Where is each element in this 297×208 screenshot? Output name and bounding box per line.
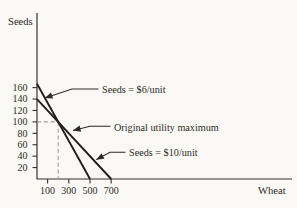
annotation-label: Original utility maximum [114, 122, 219, 133]
y-tick-label: 120 [13, 105, 28, 116]
x-tick-label: 100 [40, 185, 55, 196]
y-axis-ticks: 20406080100120140160 [13, 82, 38, 173]
figure: Seeds Wheat 20406080100120140160 1003005… [0, 0, 297, 208]
y-tick-label: 20 [18, 162, 28, 173]
x-tick-label: 500 [83, 185, 98, 196]
x-tick-label: 300 [61, 185, 76, 196]
y-axis-title: Seeds [8, 16, 33, 27]
annotation-label: Seeds = $6/unit [102, 84, 166, 95]
y-tick-label: 40 [18, 150, 28, 161]
annotations: Seeds = $6/unitOriginal utility maximumS… [45, 84, 219, 160]
annotation-arrow [73, 126, 110, 130]
budget-line [37, 99, 111, 179]
budget-line-chart: Seeds Wheat 20406080100120140160 1003005… [0, 0, 297, 208]
x-axis-title: Wheat [258, 185, 286, 196]
budget-lines [37, 84, 111, 179]
annotation-arrow [45, 89, 99, 98]
annotation-arrow [96, 152, 125, 159]
x-axis-ticks: 100300500700 [40, 179, 119, 196]
y-tick-label: 160 [13, 82, 28, 93]
y-tick-label: 140 [13, 93, 28, 104]
y-tick-label: 80 [18, 128, 28, 139]
dashed-guides [37, 122, 58, 179]
budget-line [37, 84, 90, 179]
annotation-label: Seeds = $10/unit [129, 147, 198, 158]
x-tick-label: 700 [104, 185, 119, 196]
y-tick-label: 100 [13, 116, 28, 127]
y-tick-label: 60 [18, 139, 28, 150]
